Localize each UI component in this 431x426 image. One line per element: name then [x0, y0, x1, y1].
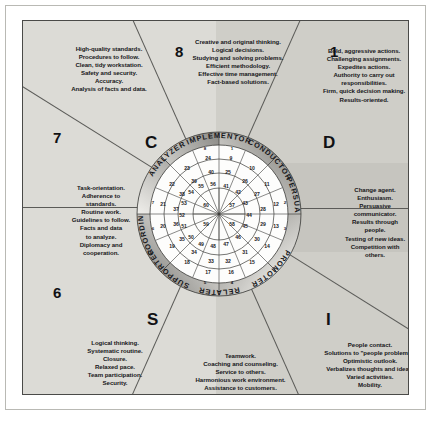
- blurb-conductor: Bold, aggressive actions. Challenging as…: [299, 47, 409, 104]
- ring-number: 46: [235, 234, 241, 240]
- ring-number: 33: [208, 258, 214, 264]
- blurb-line: Expedites actions.: [299, 63, 409, 71]
- ring-number: 59: [203, 221, 209, 227]
- ring-number: 60: [203, 202, 209, 208]
- ring-number: 18: [184, 259, 190, 265]
- disc-letter-s: S: [147, 310, 158, 330]
- blurb-line: Logical decisions.: [163, 46, 313, 54]
- blurb-line: communicator.: [315, 210, 409, 218]
- ring-number: 45: [242, 223, 248, 229]
- ring-number: 38: [179, 191, 185, 197]
- blurb-line: Effective time management.: [163, 70, 313, 78]
- blurb-line: people.: [315, 226, 409, 234]
- ring-number: 20: [160, 223, 166, 229]
- blurb-line: Change agent.: [315, 186, 409, 194]
- ring-number: 25: [225, 169, 231, 175]
- ring-number: 40: [208, 169, 214, 175]
- ring-number: 51: [181, 223, 187, 229]
- blurb-line: others.: [315, 251, 409, 259]
- ring-number: 39: [191, 178, 197, 184]
- blurb-line: Logical thinking.: [45, 339, 185, 347]
- poster-panel: High-quality standards. Procedures to fo…: [22, 20, 409, 395]
- blurb-line: Varied activities.: [295, 373, 409, 381]
- ring-number: 37: [173, 206, 179, 212]
- blurb-line: Fact-based solutions.: [163, 78, 313, 86]
- ring-number: 14: [264, 243, 270, 249]
- blurb-line: Competition with: [315, 243, 409, 251]
- blurb-line: Efficient methodology.: [163, 62, 313, 70]
- ring-number: 36: [173, 221, 179, 227]
- blurb-line: responsibilities.: [299, 79, 409, 87]
- blurb-line: Enthusiasm.: [315, 194, 409, 202]
- blurb-line: Firm, quick decision making.: [299, 87, 409, 95]
- blurb-line: Optimistic outlook.: [295, 357, 409, 365]
- blurb-line: Creative and original thinking.: [163, 38, 313, 46]
- ring-number: 16: [228, 269, 234, 275]
- blurb-line: Results-oriented.: [299, 96, 409, 104]
- ring-number: 19: [169, 243, 175, 249]
- blurb-line: Results through: [315, 218, 409, 226]
- ring-number: 53: [181, 200, 187, 206]
- segment-number-7: 7: [53, 129, 61, 146]
- ring-number: 49: [198, 241, 204, 247]
- blurb-line: Solutions to "people problems.": [295, 349, 409, 357]
- ring-number: 44: [246, 212, 252, 218]
- ring-number: 15: [249, 259, 255, 265]
- ring-number: 35: [179, 236, 185, 242]
- segment-number-6: 6: [53, 284, 61, 301]
- blurb-line: People contact.: [295, 341, 409, 349]
- segment-number-8: 8: [175, 43, 183, 60]
- ring-number: 23: [184, 165, 190, 171]
- ring-number: 47: [223, 241, 229, 247]
- ring-number: 57: [229, 202, 235, 208]
- ring-number: 43: [242, 200, 248, 206]
- blurb-line: Persuasive: [315, 202, 409, 210]
- ring-number: 50: [188, 234, 194, 240]
- disc-letter-i: I: [326, 310, 331, 330]
- ring-number: 10: [249, 165, 255, 171]
- ring-number: 54: [188, 189, 194, 195]
- ring-number: 12: [273, 201, 279, 207]
- blurb-line: Authority to carry out: [299, 71, 409, 79]
- ring-number: 24: [205, 155, 211, 161]
- ring-number: 32: [225, 258, 231, 264]
- ring-number: 55: [198, 183, 204, 189]
- ring-number: 28: [260, 206, 266, 212]
- ring-number: 21: [160, 201, 166, 207]
- blurb-implementor: Creative and original thinking. Logical …: [163, 38, 313, 87]
- ring-number: 27: [254, 191, 260, 197]
- ring-number: 48: [210, 243, 216, 249]
- ring-number: 58: [229, 221, 235, 227]
- blurb-line: Verbalizes thoughts and ideas.: [295, 365, 409, 373]
- ring-number: 9: [230, 155, 233, 161]
- blurb-line: Analysis of facts and data.: [29, 85, 189, 93]
- blurb-line: Testing of new ideas.: [315, 235, 409, 243]
- ring-number: 13: [273, 223, 279, 229]
- behavioral-styles-wheel: 1 2 3 4 5 6 7 8 9 10 11 12 13 14: [133, 128, 305, 300]
- ring-number: 52: [179, 212, 185, 218]
- disc-wheel-poster: High-quality standards. Procedures to fo…: [0, 0, 431, 426]
- blurb-line: Mobility.: [295, 381, 409, 389]
- ring-number: 22: [169, 181, 175, 187]
- ring-number: 17: [205, 269, 211, 275]
- segment-number-1: 1: [330, 43, 338, 60]
- ring-number: 42: [235, 189, 241, 195]
- blurb-line: Challenging assignments.: [299, 55, 409, 63]
- blurb-promoter: People contact. Solutions to "people pro…: [295, 341, 409, 390]
- ring-number: 56: [210, 181, 216, 187]
- blurb-persuader: Change agent. Enthusiasm. Persuasive com…: [315, 186, 409, 259]
- ring-number: 26: [242, 178, 248, 184]
- ring-number: 34: [191, 249, 197, 255]
- ring-number: 31: [242, 249, 248, 255]
- ring-number: 29: [260, 221, 266, 227]
- ring-number: 11: [264, 181, 270, 187]
- wheel-svg: 1 2 3 4 5 6 7 8 9 10 11 12 13 14: [133, 128, 305, 300]
- disc-letter-d: D: [323, 133, 335, 153]
- ring-number: 41: [223, 183, 229, 189]
- ring-number: 30: [254, 236, 260, 242]
- blurb-line: Studying and solving problems.: [163, 54, 313, 62]
- blurb-line: Bold, aggressive actions.: [299, 47, 409, 55]
